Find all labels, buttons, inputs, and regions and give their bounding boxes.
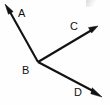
ray-BC (38, 26, 98, 62)
angle-diagram-figure: A B C D (0, 0, 110, 105)
point-label-a: A (18, 8, 25, 19)
ray-BA-line (10, 12, 38, 62)
point-label-d: D (74, 87, 82, 98)
ray-BD (38, 62, 102, 97)
ray-BC-line (38, 31, 91, 63)
point-label-c: C (70, 21, 78, 32)
ray-BA-arrowhead-icon (5, 4, 13, 14)
ray-BD-line (38, 62, 94, 92)
point-label-b: B (22, 65, 29, 76)
diagram-canvas (0, 0, 110, 105)
ray-BD-arrowhead-icon (91, 88, 102, 97)
